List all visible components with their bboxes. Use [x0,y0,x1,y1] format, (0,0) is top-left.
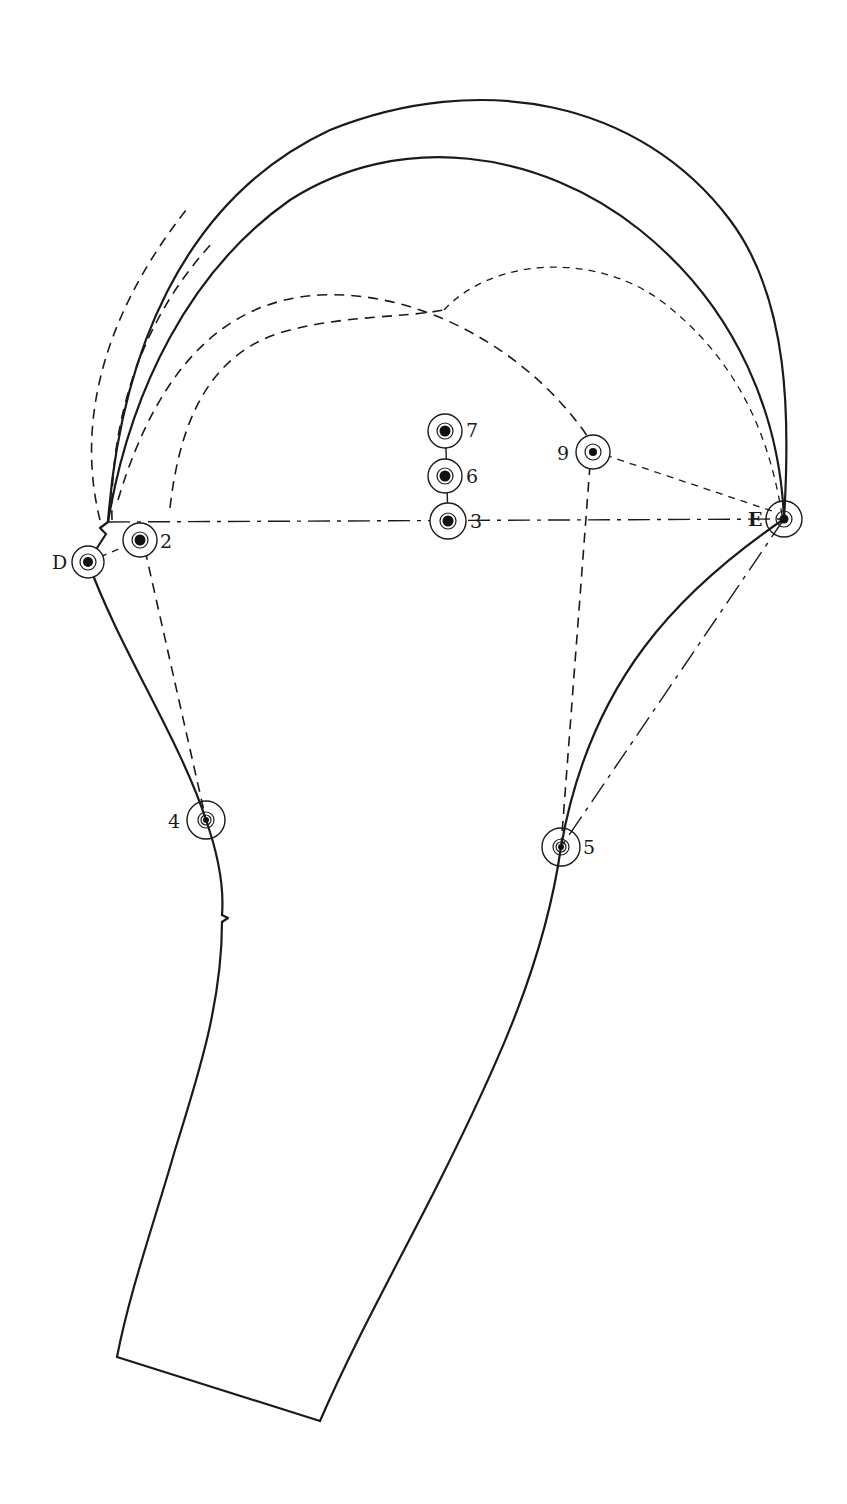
line-9-5 [561,465,590,847]
sleeve-diagram [0,0,847,1504]
point-4-marker [187,801,225,839]
hem-line [117,1357,320,1421]
dashed-curve-to-9 [118,295,590,500]
label-4: 4 [168,812,180,831]
point-3-marker [430,503,466,539]
point-5-marker [542,828,580,866]
front-seam [88,522,222,915]
point-D-marker [72,546,104,578]
line-9-E [605,455,775,512]
back-seam [320,847,561,1421]
notch-left [222,915,228,922]
label-E: E [748,510,762,529]
front-seam-lower [117,922,222,1357]
point-2-marker [123,523,157,557]
point-7-marker [428,414,462,448]
label-9: 9 [557,444,569,463]
label-7: 7 [466,421,478,440]
dashed-curve-to-E [444,267,782,515]
line-2-4 [145,550,206,820]
dashed-crown-variation-2 [112,240,215,520]
dashed-curve-from-2 [170,310,444,508]
label-D: D [52,553,67,572]
label-3: 3 [470,512,482,531]
point-9-marker [576,435,610,469]
point-6-marker [428,459,462,493]
label-2: 2 [160,532,172,551]
label-5: 5 [583,838,595,857]
line-E-5 [561,519,784,847]
label-6: 6 [466,467,478,486]
